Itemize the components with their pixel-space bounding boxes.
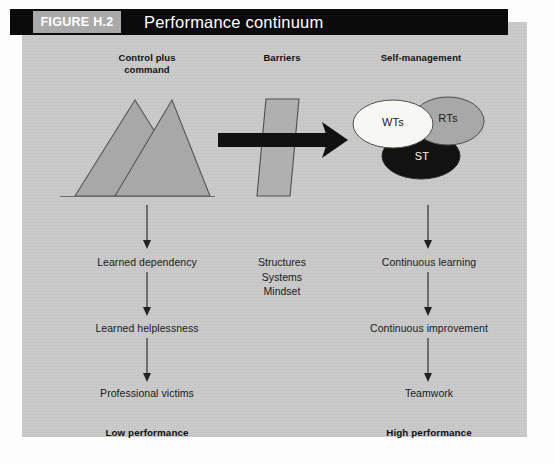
low-performance-label: Low performance bbox=[62, 427, 232, 438]
venn-label-st: ST bbox=[400, 150, 444, 162]
figure-panel bbox=[22, 22, 527, 437]
barrier-item-structures: Structures bbox=[224, 255, 340, 270]
column-heading-self-management: Self-management bbox=[358, 52, 484, 64]
right-flow-step-1: Continuous learning bbox=[344, 256, 514, 268]
right-flow-step-2: Continuous improvement bbox=[336, 322, 522, 334]
figure-number-badge: FIGURE H.2 bbox=[33, 11, 121, 33]
high-performance-label: High performance bbox=[344, 427, 514, 438]
column-heading-control-plus-command: Control plus command bbox=[88, 52, 206, 75]
figure-title: Performance continuum bbox=[144, 10, 323, 34]
barrier-item-systems: Systems bbox=[224, 270, 340, 285]
venn-label-rts: RTs bbox=[424, 112, 472, 124]
barrier-list: Structures Systems Mindset bbox=[224, 255, 340, 299]
left-flow-step-2: Learned helplessness bbox=[62, 322, 232, 334]
left-flow-step-3: Professional victims bbox=[62, 387, 232, 399]
column-heading-barriers: Barriers bbox=[230, 52, 334, 64]
right-flow-step-3: Teamwork bbox=[344, 387, 514, 399]
figure-container: FIGURE H.2 Performance continuum Control… bbox=[0, 0, 554, 464]
barrier-item-mindset: Mindset bbox=[224, 284, 340, 299]
venn-label-wts: WTs bbox=[366, 116, 420, 128]
left-flow-step-1: Learned dependency bbox=[62, 256, 232, 268]
figure-header-bar: FIGURE H.2 Performance continuum bbox=[10, 9, 508, 35]
